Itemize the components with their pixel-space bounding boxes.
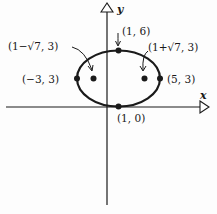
label-focus-left: (1−√7, 3) (8, 40, 58, 52)
point-vertex-left (74, 76, 80, 82)
point-focus-right (142, 76, 148, 82)
label-vertex-right: (5, 3) (167, 73, 195, 85)
y-axis-label: y (116, 3, 125, 16)
diagram-canvas: y x (1, 6) (1−√7, 3) (1+√7, 3) (−3, 3) (… (0, 0, 217, 214)
point-bottom (116, 104, 122, 110)
y-axis-arrow-icon (101, 3, 113, 12)
label-vertex-left: (−3, 3) (22, 73, 59, 85)
ellipse-curve (77, 51, 160, 107)
point-vertex-right (157, 76, 163, 82)
label-focus-right: (1+√7, 3) (148, 41, 198, 53)
x-axis-label: x (199, 89, 207, 102)
label-bottom: (1, 0) (117, 112, 145, 124)
point-top (116, 48, 122, 54)
label-top: (1, 6) (122, 25, 150, 37)
ellipse-diagram: y x (1, 6) (1−√7, 3) (1+√7, 3) (−3, 3) (… (0, 0, 217, 214)
x-axis-arrow-icon (200, 101, 209, 113)
point-focus-left (91, 76, 97, 82)
